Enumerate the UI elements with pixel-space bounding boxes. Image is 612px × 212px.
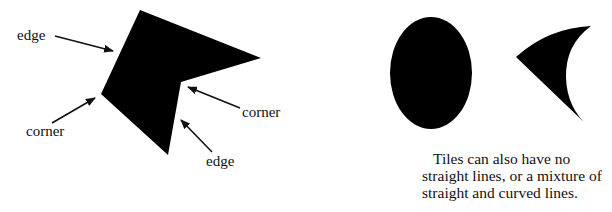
corner-right-arrow [188, 87, 240, 108]
polygon-tile [101, 10, 261, 155]
ellipse-tile [390, 17, 472, 129]
corner-left-arrow [52, 98, 95, 123]
caption-line-3: straight and curved lines. [422, 184, 612, 201]
caption-line-2: straight lines, or a mixture of [422, 167, 612, 184]
curved-tile [516, 26, 591, 127]
edge-label-bottom: edge [206, 154, 234, 169]
caption-line-1: Tiles can also have no [422, 150, 612, 167]
edge-top-arrow [55, 36, 113, 51]
edge-bottom-arrow [181, 120, 212, 152]
edge-label-top: edge [17, 28, 45, 43]
corner-label-left: corner [26, 124, 64, 139]
corner-label-right: corner [242, 105, 280, 120]
caption: Tiles can also have no straight lines, o… [422, 150, 612, 201]
